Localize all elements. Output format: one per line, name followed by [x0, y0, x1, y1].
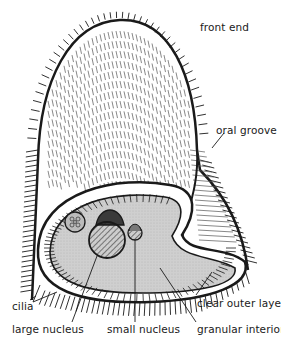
- large-nucleus: [89, 222, 125, 258]
- label-clear-outer-layer: clear outer layer: [197, 297, 281, 309]
- label-large-nucleus: large nucleus: [12, 323, 84, 335]
- label-oral-groove: oral groove: [216, 124, 277, 136]
- label-cilia: cilia: [12, 300, 33, 312]
- label-small-nucleus: small nucleus: [107, 323, 180, 335]
- label-front-end: front end: [200, 21, 249, 33]
- label-granular-interior: granular interior: [197, 323, 281, 335]
- food-vacuole: [65, 212, 85, 232]
